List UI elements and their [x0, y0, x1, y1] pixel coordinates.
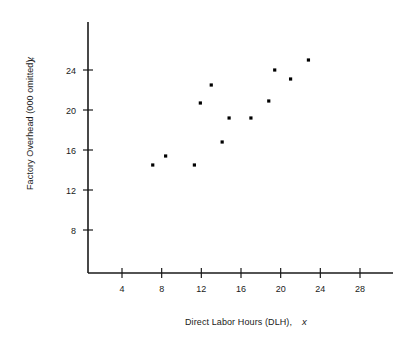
data-point — [193, 163, 196, 166]
y-axis-tick-label: 8 — [71, 226, 76, 236]
data-point — [228, 116, 231, 119]
y-axis-tick-label: 16 — [66, 146, 76, 156]
data-point — [307, 58, 310, 61]
data-point — [273, 68, 276, 71]
x-axis-tick-label: 8 — [159, 284, 164, 294]
scatter-chart: 481216202428 812162024 Direct Labor Hour… — [0, 0, 410, 350]
data-point — [289, 77, 292, 80]
x-axis-tick-label: 4 — [119, 284, 124, 294]
x-axis-tick-label: 12 — [196, 284, 206, 294]
data-point-series — [151, 58, 310, 166]
data-point — [249, 116, 252, 119]
x-axis-variable-label: x — [301, 316, 308, 327]
data-point — [151, 163, 154, 166]
y-axis-tick-label: 12 — [66, 186, 76, 196]
x-axis-tick-label: 16 — [236, 284, 246, 294]
data-point — [164, 154, 167, 157]
x-axis-tick-label: 24 — [315, 284, 325, 294]
x-axis-tick-label: 28 — [355, 284, 365, 294]
y-axis-tick-label: 20 — [66, 106, 76, 116]
y-axis-tick-label: 24 — [66, 66, 76, 76]
axis-lines — [88, 22, 393, 273]
data-point — [267, 99, 270, 102]
data-point — [221, 140, 224, 143]
y-axis-title: Factory Overhead (000 omitted), — [25, 57, 35, 190]
x-axis-tick-labels: 481216202428 — [119, 284, 365, 294]
x-axis-tick-label: 20 — [276, 284, 286, 294]
x-axis-title: Direct Labor Hours (DLH), — [185, 317, 292, 327]
y-axis-tick-labels: 812162024 — [66, 66, 76, 236]
data-point — [210, 83, 213, 86]
data-point — [199, 101, 202, 104]
plot-area: 481216202428 812162024 Direct Labor Hour… — [0, 0, 410, 350]
